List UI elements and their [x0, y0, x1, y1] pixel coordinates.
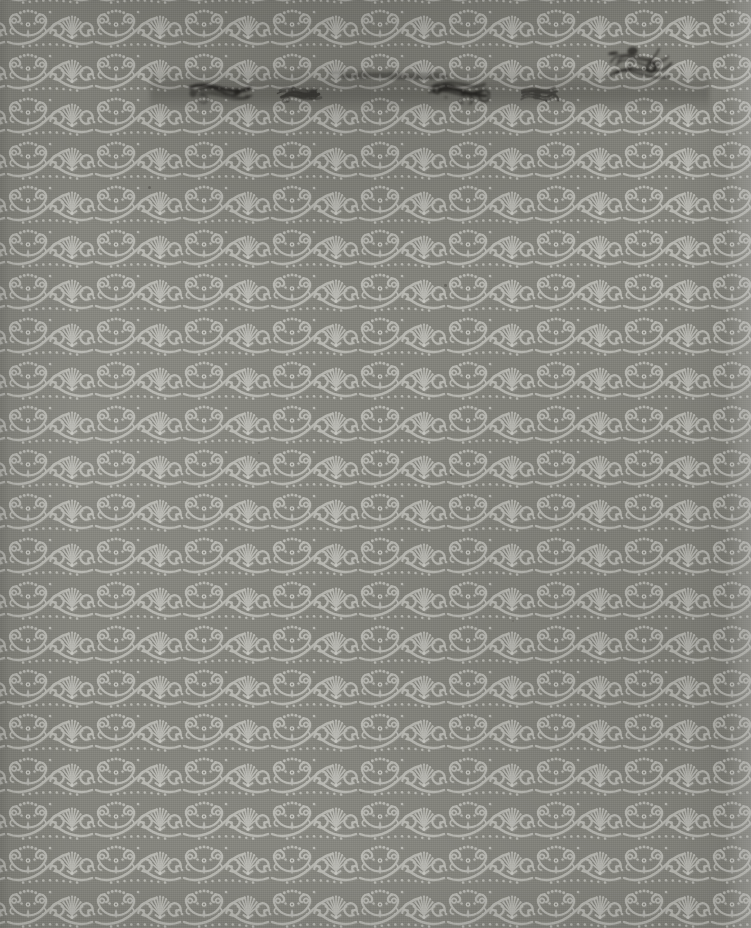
paper-fibre-texture [0, 0, 751, 928]
scanned-page: Scanned page of patterned damask endpape… [0, 0, 751, 928]
